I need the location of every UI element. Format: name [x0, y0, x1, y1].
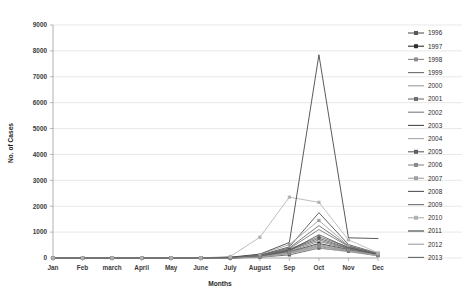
- x-tick-label: march: [102, 264, 121, 271]
- series-group: [53, 55, 378, 258]
- x-tick-label: May: [165, 264, 178, 272]
- series-marker: [347, 244, 350, 247]
- legend-label: 2009: [428, 201, 443, 208]
- series-marker: [347, 238, 350, 241]
- y-tick-labels-group: 0100020003000400050006000700080009000: [33, 21, 48, 261]
- series-line: [53, 247, 378, 258]
- line-chart-figure: 0100020003000400050006000700080009000 Ja…: [0, 0, 462, 300]
- series-line: [53, 241, 378, 258]
- series-marker: [199, 256, 202, 259]
- x-axis-title: Months: [208, 280, 232, 287]
- legend-label: 2008: [428, 188, 443, 195]
- x-tick-label: June: [193, 264, 208, 271]
- series-marker: [317, 219, 320, 222]
- y-tick-label: 6000: [33, 99, 48, 106]
- legend-marker-swatch: [414, 216, 418, 220]
- legend-group: 1996199719981999200020012002200320042005…: [408, 29, 443, 260]
- legend-marker-swatch: [414, 31, 418, 35]
- legend-label: 1997: [428, 43, 443, 50]
- x-tick-label: Sep: [283, 264, 295, 272]
- legend-label: 2010: [428, 214, 443, 221]
- legend-label: 2006: [428, 161, 443, 168]
- y-tick-label: 3000: [33, 177, 48, 184]
- legend-marker-swatch: [414, 57, 418, 61]
- series-marker: [376, 251, 379, 254]
- series-marker: [317, 243, 320, 246]
- legend-label: 1996: [428, 29, 443, 36]
- series-line: [53, 245, 378, 258]
- legend-label: 2005: [428, 148, 443, 155]
- legend-label: 2007: [428, 175, 443, 182]
- legend-label: 2003: [428, 122, 443, 129]
- legend-label: 2004: [428, 135, 443, 142]
- legend-label: 2012: [428, 241, 443, 248]
- x-tick-label: Oct: [314, 264, 326, 271]
- series-marker: [288, 243, 291, 246]
- gridlines-group: [53, 25, 462, 258]
- y-axis-title: No. of Cases: [7, 123, 14, 163]
- y-tick-label: 0: [43, 254, 47, 261]
- x-tick-label: August: [249, 264, 272, 272]
- y-tick-label: 1000: [33, 228, 48, 235]
- series-marker: [51, 256, 54, 259]
- series-marker: [317, 237, 320, 240]
- series-marker: [170, 256, 173, 259]
- legend-marker-swatch: [414, 176, 418, 180]
- legend-marker-swatch: [414, 163, 418, 167]
- chart-canvas: 0100020003000400050006000700080009000 Ja…: [0, 0, 462, 300]
- series-line: [53, 246, 378, 258]
- series-marker: [110, 256, 113, 259]
- series-line: [53, 248, 378, 258]
- legend-marker-swatch: [414, 44, 418, 48]
- series-line: [53, 55, 378, 258]
- legend-label: 2001: [428, 95, 443, 102]
- series-marker: [288, 250, 291, 253]
- y-tick-label: 5000: [33, 125, 48, 132]
- legend-label: 2011: [428, 227, 442, 234]
- series-line: [53, 244, 378, 259]
- legend-label: 1999: [428, 69, 443, 76]
- y-tick-label: 2000: [33, 203, 48, 210]
- series-marker: [81, 256, 84, 259]
- y-tick-label: 7000: [33, 73, 48, 80]
- legend-label: 2000: [428, 82, 443, 89]
- legend-label: 2013: [428, 254, 443, 261]
- legend-marker-swatch: [414, 150, 418, 154]
- legend-label: 2002: [428, 109, 443, 116]
- x-tick-label: Nov: [342, 264, 355, 271]
- series-marker: [258, 253, 261, 256]
- markers-group: [51, 196, 379, 260]
- x-tick-label: April: [134, 264, 149, 272]
- x-tick-labels-group: JanFebmarchAprilMayJuneJulyAugustSepOctN…: [47, 264, 384, 272]
- series-marker: [258, 236, 261, 239]
- y-tick-label: 9000: [33, 21, 48, 28]
- legend-marker-swatch: [414, 97, 418, 101]
- x-tick-label: July: [224, 264, 237, 272]
- series-marker: [229, 255, 232, 258]
- x-tick-label: Feb: [77, 264, 88, 271]
- series-marker: [347, 248, 350, 251]
- legend-label: 1998: [428, 56, 443, 63]
- y-tick-label: 4000: [33, 151, 48, 158]
- x-tick-label: Jan: [47, 264, 58, 271]
- series-marker: [288, 196, 291, 199]
- series-marker: [140, 256, 143, 259]
- y-tick-label: 8000: [33, 47, 48, 54]
- x-tick-label: Dec: [372, 264, 384, 271]
- series-marker: [317, 201, 320, 204]
- axis-lines-group: [50, 25, 378, 261]
